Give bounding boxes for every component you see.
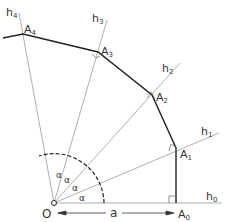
angle-label-4: α [56, 170, 62, 180]
origin-point [52, 201, 57, 206]
angle-label-2: α [72, 183, 78, 193]
arrowhead-right [166, 211, 174, 215]
arrowhead-left [58, 211, 66, 215]
ray-label-h2: h2 [162, 62, 173, 76]
angle-label-1: α [79, 193, 85, 203]
angle-label-3: α [64, 175, 70, 185]
polyline-a0-a4 [3, 34, 176, 203]
ray-label-h3: h3 [92, 12, 103, 26]
ray-label-h1: h1 [201, 125, 212, 139]
ray-label-h0: h0 [206, 190, 217, 204]
point-label-a1: A1 [180, 148, 192, 162]
point-label-a2: A2 [156, 91, 168, 105]
origin-label: O [42, 207, 51, 221]
ray-h4 [19, 13, 54, 203]
point-label-a0: A0 [178, 208, 190, 222]
ray-label-h4: h4 [6, 6, 18, 20]
distance-label: a [110, 206, 117, 220]
spiral-construction-diagram: O a h0 h1 h2 h3 h4 A0 A1 A2 A3 A4 α α α … [0, 0, 226, 222]
ray-h2 [54, 63, 180, 203]
point-label-a3: A3 [101, 45, 113, 59]
point-label-a4: A4 [24, 23, 37, 37]
right-angle-a0 [169, 196, 176, 203]
